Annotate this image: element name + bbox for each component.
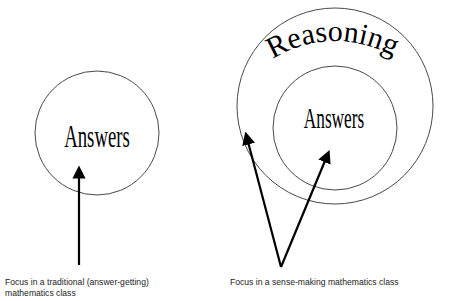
answers-label-right: Answers	[304, 101, 364, 134]
caption-sense-making: Focus in a sense-making mathematics clas…	[230, 277, 450, 288]
arrow-to-answers	[281, 156, 327, 267]
diagram-canvas: Answers Reasoning Answers	[0, 0, 458, 301]
answers-label-left: Answers	[64, 118, 130, 155]
caption-traditional: Focus in a traditional (answer-getting) …	[5, 277, 175, 299]
reasoning-label: Reasoning	[260, 14, 404, 64]
arrow-to-reasoning	[247, 138, 281, 267]
